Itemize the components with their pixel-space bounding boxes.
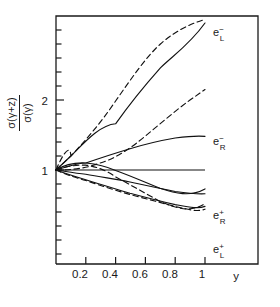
- curve-hump-dashed: [56, 165, 205, 209]
- fraction-bar: [19, 95, 20, 131]
- x-axis-ticks: [86, 257, 205, 264]
- x-tick-label-0: 0.2: [72, 268, 88, 280]
- x-tick-label-3: 0.8: [162, 268, 178, 280]
- svg-text:e−L: e−L: [213, 25, 225, 43]
- curve-eL-minus-dashed: [56, 19, 205, 170]
- y-axis-fraction: σ(γ+z) σ(γ): [5, 95, 33, 131]
- plot-svg: 0.2 0.4 0.6 0.8 1 y 1 2 e−L e−R e+R e+L: [0, 0, 280, 307]
- curve-label-eL-minus: e−L: [213, 25, 225, 43]
- y-axis-label: σ(γ+z) σ(γ): [2, 65, 36, 161]
- curve-label-eL-plus: e+L: [213, 242, 225, 260]
- curve-label-eR-plus: e+R: [213, 208, 226, 226]
- label-eL-plus-sub: L: [220, 251, 225, 260]
- curve-eR-minus-dashed: [56, 90, 205, 171]
- curve-label-eR-minus: e−R: [213, 134, 226, 152]
- y-tick-label-1: 1: [42, 165, 48, 177]
- label-eL-minus-sub: L: [220, 34, 225, 43]
- cross-section-ratio-chart: σ(γ+z) σ(γ): [0, 0, 280, 307]
- svg-text:e−R: e−R: [213, 134, 226, 152]
- y-axis-minor-ticks: [56, 30, 62, 254]
- label-eR-minus-sub: R: [220, 143, 226, 152]
- svg-text:e+L: e+L: [213, 242, 225, 260]
- x-tick-label-1: 0.4: [102, 268, 119, 280]
- y-axis-denominator: σ(γ): [21, 95, 33, 131]
- label-eR-plus-sup: +: [219, 208, 224, 217]
- label-eL-plus-sup: +: [219, 242, 224, 251]
- x-axis-label: y: [233, 270, 239, 282]
- y-tick-label-2: 2: [42, 95, 48, 107]
- svg-text:e+R: e+R: [213, 208, 226, 226]
- x-tick-label-2: 0.6: [132, 268, 148, 280]
- plot-frame: [56, 16, 258, 264]
- label-eR-plus-sub: R: [220, 217, 226, 226]
- y-axis-major-ticks: [56, 100, 64, 170]
- curve-eR-plus-solid: [56, 170, 205, 194]
- label-eL-minus-sup: −: [219, 25, 224, 34]
- label-eR-minus-sup: −: [219, 134, 224, 143]
- y-axis-numerator: σ(γ+z): [5, 95, 17, 131]
- x-tick-label-4: 1: [199, 268, 205, 280]
- curve-eL-minus-solid: [56, 23, 205, 170]
